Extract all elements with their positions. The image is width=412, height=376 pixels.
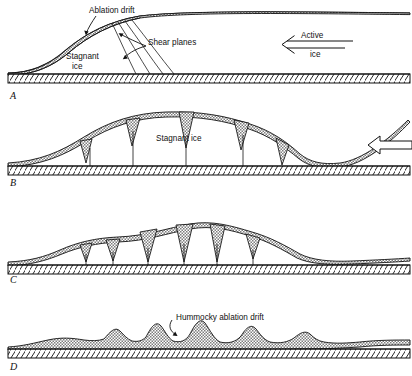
label-hummocky-ablation-drift: Hummocky ablation drift — [176, 313, 265, 322]
panel-letter-c: C — [10, 274, 17, 285]
panel-b-drift-layer — [8, 112, 410, 168]
label-panel-b-stagnant-ice: Stagnant ice — [156, 134, 202, 143]
label-stagnant-ice-line2: ice — [72, 62, 83, 71]
panel-letter-a: A — [9, 90, 17, 101]
panel-c: C — [8, 223, 410, 285]
label-shear-planes: Shear planes — [148, 38, 196, 47]
label-ablation-drift: Ablation drift — [89, 6, 135, 15]
label-active-ice-line2: ice — [310, 50, 321, 59]
panel-a-ablation-drift — [8, 12, 410, 75]
panel-b-ground — [8, 166, 410, 175]
panel-c-ground — [8, 265, 410, 274]
panel-b: Stagnant ice B — [8, 112, 412, 188]
glacial-ablation-drift-figure: Ablation drift Shear planes Stagnant ice… — [0, 0, 412, 376]
panel-a-shear-leader-upper — [120, 34, 146, 46]
label-active-ice-line1: Active — [301, 31, 324, 40]
cut-off-caption — [56, 0, 356, 3]
panel-a-ice-surface — [8, 12, 410, 73]
figure-canvas: Ablation drift Shear planes Stagnant ice… — [0, 0, 412, 376]
label-stagnant-ice-line1: Stagnant — [66, 52, 100, 61]
panel-c-drift-layer — [8, 223, 410, 266]
panel-a: Ablation drift Shear planes Stagnant ice… — [8, 6, 410, 101]
panel-d-ground — [8, 349, 410, 358]
panel-a-ground — [8, 74, 410, 83]
panel-d-hummocky-arrowhead — [173, 332, 178, 336]
panel-d: Hummocky ablation drift D — [8, 313, 410, 372]
panel-letter-b: B — [10, 177, 16, 188]
panel-letter-d: D — [9, 361, 18, 372]
panel-d-hummocky-drift — [8, 321, 410, 350]
